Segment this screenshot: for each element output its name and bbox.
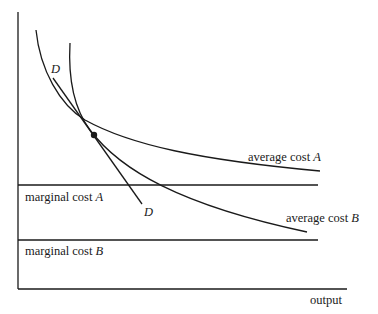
marginal-cost-a-label: marginal cost A xyxy=(25,190,104,204)
tangency-point xyxy=(91,132,97,138)
average-cost-a-label: average cost A xyxy=(248,150,321,164)
marginal-cost-b-label: marginal cost B xyxy=(25,244,104,258)
x-axis-label: output xyxy=(310,293,342,307)
cost-curves-diagram: D D average cost A average cost B margin… xyxy=(0,0,378,314)
average-cost-b-label: average cost B xyxy=(286,211,359,225)
average-cost-b-curve xyxy=(70,43,307,232)
demand-label-bottom: D xyxy=(143,205,153,219)
diagram-canvas: D D average cost A average cost B margin… xyxy=(0,0,378,314)
demand-label-top: D xyxy=(50,62,60,76)
